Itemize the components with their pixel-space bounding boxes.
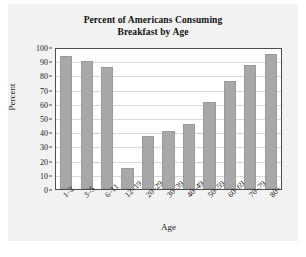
y-tick-label: 70 <box>40 86 48 95</box>
bar-slot <box>138 49 158 189</box>
chart-title-line-2: Breakfast by Age <box>8 26 298 38</box>
y-tick-label: 80 <box>40 72 48 81</box>
bar[interactable] <box>244 65 256 189</box>
y-tick-label: 10 <box>40 171 48 180</box>
y-tick-mark <box>49 147 52 148</box>
y-tick-mark <box>49 48 52 49</box>
bar-slot <box>56 49 76 189</box>
bar[interactable] <box>162 131 174 189</box>
bar[interactable] <box>101 67 113 189</box>
x-axis-label: Age <box>55 222 282 232</box>
plot-area <box>55 48 282 190</box>
y-tick-mark <box>49 133 52 134</box>
bar-series <box>56 49 281 189</box>
y-tick-label: 20 <box>40 157 48 166</box>
bar[interactable] <box>203 102 215 189</box>
bar-slot <box>76 49 96 189</box>
y-tick-label: 40 <box>40 129 48 138</box>
bar-slot <box>158 49 178 189</box>
chart-figure: Percent of Americans Consuming Breakfast… <box>8 4 298 241</box>
bar-slot <box>97 49 117 189</box>
y-axis-ticks: 0102030405060708090100 <box>8 48 52 190</box>
chart-title-line-1: Percent of Americans Consuming <box>8 14 298 26</box>
y-tick-mark <box>49 90 52 91</box>
y-tick-label: 50 <box>40 115 48 124</box>
bar-slot <box>240 49 260 189</box>
bar[interactable] <box>142 136 154 189</box>
y-tick-mark <box>49 104 52 105</box>
y-tick-label: 30 <box>40 143 48 152</box>
bar[interactable] <box>265 54 277 189</box>
bar-slot <box>261 49 281 189</box>
y-tick-mark <box>49 119 52 120</box>
x-axis-ticks: 1–23–56–1112–1920–2930–3940–4950–5960–69… <box>55 191 282 225</box>
bar-slot <box>220 49 240 189</box>
bar[interactable] <box>60 56 72 189</box>
y-tick-mark <box>49 62 52 63</box>
y-tick-label: 100 <box>36 44 48 53</box>
y-tick-mark <box>49 161 52 162</box>
y-tick-mark <box>49 190 52 191</box>
bar[interactable] <box>183 124 195 189</box>
y-tick-label: 90 <box>40 58 48 67</box>
y-tick-label: 60 <box>40 100 48 109</box>
y-tick-label: 0 <box>44 186 48 195</box>
y-tick-mark <box>49 175 52 176</box>
chart-title: Percent of Americans Consuming Breakfast… <box>8 14 298 38</box>
bar-slot <box>117 49 137 189</box>
bar-slot <box>199 49 219 189</box>
bar-slot <box>179 49 199 189</box>
bar[interactable] <box>224 81 236 189</box>
y-tick-mark <box>49 76 52 77</box>
bar[interactable] <box>81 61 93 189</box>
